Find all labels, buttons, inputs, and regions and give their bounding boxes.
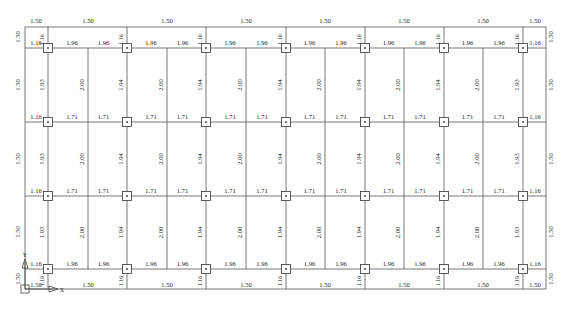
dimension-label: 2.00 — [157, 227, 164, 238]
ucs-y-label: Y — [23, 252, 28, 258]
column-node-dot — [47, 195, 49, 197]
dimension-label: 1.71 — [145, 113, 156, 120]
dimension-label: 1.96 — [414, 260, 426, 267]
dimension-label: 2.00 — [394, 153, 401, 164]
dimension-label: 1.16 — [529, 39, 541, 46]
dimension-label: 1.50 — [529, 17, 540, 24]
cad-drawing-canvas[interactable]: 1.501.501.501.501.501.501.501.501.501.50… — [0, 0, 563, 313]
dimension-label: 2.00 — [315, 79, 322, 90]
dimension-label: 1.96 — [66, 260, 78, 267]
dimension-label: 1.71 — [177, 187, 188, 194]
dimension-label: 1.96 — [383, 39, 395, 46]
dimension-label: 1.16 — [30, 260, 42, 267]
dimension-label: 1.71 — [224, 187, 235, 194]
dimension-label: 1.50 — [547, 31, 554, 42]
dimension-label: 1.93 — [38, 79, 45, 90]
dimension-label: 1.50 — [14, 226, 21, 237]
dimension-label: 1.50 — [547, 273, 554, 284]
column-node-dot — [285, 121, 287, 123]
dimension-label: 1.50 — [319, 281, 330, 288]
dimension-label: 1.96 — [256, 39, 268, 46]
dimension-label: 1.16 — [39, 276, 45, 287]
dimension-label: 1.71 — [462, 113, 473, 120]
dimension-label: 2.00 — [315, 153, 322, 164]
dimension-label: 1.16 — [435, 276, 441, 287]
dimension-label: 1.50 — [30, 17, 41, 24]
dimension-label: 2.00 — [473, 153, 480, 164]
dimension-label: 1.71 — [256, 113, 267, 120]
column-node-dot — [364, 121, 366, 123]
dimension-label: 1.71 — [493, 187, 504, 194]
dimension-label: 1.50 — [529, 281, 540, 288]
dimension-label: 1.71 — [145, 187, 156, 194]
dimension-label: 1.50 — [14, 31, 21, 42]
dimension-label: 1.94 — [196, 153, 203, 165]
column-node-dot — [443, 268, 445, 270]
dimension-label: 1.71 — [383, 113, 394, 120]
column-node-dot — [522, 47, 524, 49]
dimension-label: 1.71 — [304, 113, 315, 120]
dimension-label: 1.94 — [434, 226, 441, 238]
dimension-label: 1.94 — [276, 226, 283, 238]
dimension-label: 1.50 — [240, 281, 251, 288]
column-node-dot — [47, 47, 49, 49]
column-node-dot — [126, 195, 128, 197]
dimension-label: 1.96 — [256, 260, 268, 267]
dimension-label: 1.93 — [513, 153, 520, 164]
dimension-label: 2.00 — [473, 79, 480, 90]
dimension-label: 1.96 — [66, 39, 78, 46]
dimension-label: 1.94 — [276, 153, 283, 165]
dimension-label: 1.96 — [224, 260, 236, 267]
dimension-label: 1.93 — [38, 227, 45, 238]
column-node-dot — [205, 47, 207, 49]
dimension-label: 1.96 — [493, 260, 505, 267]
dimension-label: 1.50 — [240, 17, 251, 24]
dimension-label: 2.00 — [78, 79, 85, 90]
ucs-x-label: X — [60, 287, 65, 293]
dimension-label: 1.93 — [513, 79, 520, 90]
dimension-label: 2.00 — [236, 79, 243, 90]
dimension-label: 1.96 — [383, 260, 395, 267]
dimension-label: 1.50 — [547, 226, 554, 237]
column-node-dot — [47, 268, 49, 270]
dimension-label: 1.71 — [98, 187, 109, 194]
dimension-label: 1.96 — [493, 39, 505, 46]
dimension-label: 1.71 — [224, 113, 235, 120]
dimension-label: 1.94 — [434, 79, 441, 91]
dimension-label: 1.50 — [82, 281, 93, 288]
column-node-dot — [285, 47, 287, 49]
dimension-label: 1.96 — [304, 260, 316, 267]
dimension-label: 1.96 — [98, 260, 110, 267]
column-node-dot — [205, 121, 207, 123]
dimension-label: 1.71 — [335, 113, 346, 120]
column-node-dot — [443, 195, 445, 197]
dimension-label: 2.00 — [315, 227, 322, 238]
dimension-label: 1.94 — [117, 79, 124, 91]
dimension-label: 1.50 — [398, 17, 409, 24]
dimension-label: 1.16 — [197, 276, 203, 287]
dimension-label: 2.00 — [157, 79, 164, 90]
column-node-dot — [522, 121, 524, 123]
dimension-label: 1.16 — [529, 187, 541, 194]
dimension-label: 1.96 — [304, 39, 316, 46]
column-node-dot — [285, 195, 287, 197]
column-node-dot — [443, 47, 445, 49]
dimension-label: 1.71 — [383, 187, 394, 194]
dimension-label: 1.50 — [477, 281, 488, 288]
dimension-label: 1.93 — [513, 227, 520, 238]
dimension-label: 1.50 — [161, 281, 172, 288]
dimension-label: 1.96 — [177, 260, 189, 267]
dimension-label: 2.00 — [236, 153, 243, 164]
dimension-label: 1.71 — [66, 113, 77, 120]
dimension-label: 1.71 — [414, 187, 425, 194]
dimension-label: 1.16 — [529, 260, 541, 267]
dimension-label: 1.16 — [356, 276, 362, 287]
dimension-label: 1.94 — [434, 153, 441, 165]
dimension-label: 2.00 — [78, 153, 85, 164]
dimension-label: 1.71 — [256, 187, 267, 194]
dimension-label: 2.00 — [473, 227, 480, 238]
column-node-dot — [364, 195, 366, 197]
column-node-dot — [285, 268, 287, 270]
dimension-label: 1.71 — [304, 187, 315, 194]
dimension-label: 1.71 — [335, 187, 346, 194]
